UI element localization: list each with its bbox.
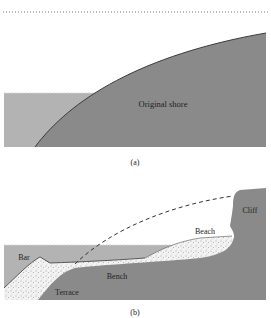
caption-b: (b)	[130, 308, 140, 317]
panel-b: Cliff Beach Bar Bench Terrace	[4, 188, 266, 300]
label-beach: Beach	[195, 227, 215, 236]
label-terrace: Terrace	[55, 288, 79, 297]
label-cliff: Cliff	[243, 206, 258, 215]
shoreline-evolution-figure: Original shore (a) Cliff Beach Bar Bench…	[0, 0, 271, 318]
panel-a: Original shore	[4, 33, 266, 147]
bedrock-bench-cliff	[38, 188, 266, 300]
label-bar: Bar	[18, 253, 30, 262]
caption-a: (a)	[131, 158, 140, 167]
land-original-shore	[35, 33, 266, 147]
label-original-shore: Original shore	[139, 99, 188, 109]
label-bench: Bench	[107, 272, 127, 281]
